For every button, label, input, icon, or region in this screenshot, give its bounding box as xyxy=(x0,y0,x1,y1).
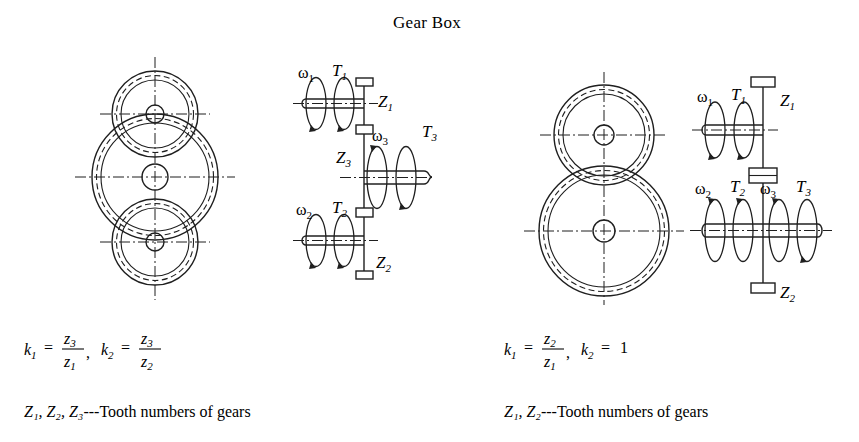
right-label-omega2: ω2 xyxy=(695,180,711,200)
right-T2-arrowhead xyxy=(736,198,743,205)
left-formula-k2-numerator: z3 xyxy=(140,330,153,349)
left-shaft-middle-right: ω3 T3 xyxy=(340,122,437,210)
right-T3-arrowhead xyxy=(800,256,807,263)
right-caption-text: ---Tooth numbers of gears xyxy=(541,403,708,421)
right-schematic-gear-z2 xyxy=(751,283,775,293)
right-formula-separator: , xyxy=(566,344,570,361)
left-label-T3: T3 xyxy=(422,122,437,143)
right-label-T3: T3 xyxy=(796,177,811,198)
left-schematic-gear-z2 xyxy=(356,271,373,279)
left-T1-arrowhead xyxy=(337,125,344,132)
left-caption-text: ---Tooth numbers of gears xyxy=(83,403,250,421)
right-formula-k2: k2 xyxy=(581,341,594,361)
right-schematic-label-z2: Z2 xyxy=(780,283,795,304)
right-formula-k1-denominator: z1 xyxy=(543,353,556,372)
left-schematic-gear-upper-block xyxy=(356,125,373,134)
left-omega2-arrowhead xyxy=(309,262,316,269)
left-T3-arrowhead xyxy=(399,203,406,210)
right-schematic: Z1 Z2 ω1 T1 xyxy=(690,77,832,304)
left-omega1-arrowhead xyxy=(309,125,316,132)
gear-box-figure: Gear Box xyxy=(0,0,859,442)
left-formula-k2-denominator: z2 xyxy=(140,353,153,372)
left-formula-k2: k2 xyxy=(101,341,114,361)
left-caption-symbols: Z₁, Z₂, Z₃ xyxy=(24,403,83,420)
right-omega1-arrowhead xyxy=(708,153,715,160)
right-shaft-upper: ω1 T1 xyxy=(692,85,778,160)
left-T2-arrowhead xyxy=(337,262,344,269)
right-schematic-gear-z1 xyxy=(751,77,775,87)
left-schematic: Z1 Z3 Z2 ω1 T1 xyxy=(293,61,437,279)
left-caption: Z₁, Z₂, Z₃---Tooth numbers of gears xyxy=(24,403,251,421)
right-formula-k2-value: 1 xyxy=(620,339,628,356)
right-formula-k1: k1 xyxy=(504,341,517,361)
left-schematic-label-z2: Z2 xyxy=(376,253,391,274)
left-formula-k1-denominator: z1 xyxy=(63,353,76,372)
left-formula-separator: , xyxy=(86,344,90,361)
left-schematic-gear-z1 xyxy=(356,78,373,86)
left-gear-view xyxy=(75,57,235,300)
left-schematic-label-z1: Z1 xyxy=(378,92,393,113)
left-omega3-arrowhead xyxy=(370,145,377,152)
left-schematic-gear-lower-block xyxy=(356,208,373,217)
left-label-T2: T2 xyxy=(332,198,347,219)
left-label-omega2: ω2 xyxy=(296,201,312,221)
left-formula-equals-2: = xyxy=(121,339,130,356)
right-label-T1: T1 xyxy=(731,85,746,106)
right-formula-equals-2: = xyxy=(601,339,610,356)
right-label-omega1: ω1 xyxy=(697,88,713,108)
right-formula: k1 = z2 z1 , k2 = 1 xyxy=(504,330,628,372)
right-formula-k1-numerator: z2 xyxy=(543,330,556,349)
right-caption-symbols: Z₁, Z₂ xyxy=(504,403,541,420)
right-formula-equals-1: = xyxy=(524,339,533,356)
left-formula: k1 = z3 z1 , k2 = z3 z2 xyxy=(24,330,161,372)
right-gear-view xyxy=(524,72,684,305)
left-formula-k1-numerator: z3 xyxy=(63,330,76,349)
left-gear-middle xyxy=(75,114,235,240)
left-label-omega1: ω1 xyxy=(298,64,314,84)
right-label-T2: T2 xyxy=(730,177,745,198)
right-caption: Z₁, Z₂---Tooth numbers of gears xyxy=(504,403,708,421)
right-shaft-lower: ω2 T2 ω3 T3 xyxy=(690,177,832,263)
left-label-T1: T1 xyxy=(332,61,347,82)
left-formula-k1: k1 xyxy=(24,341,37,361)
figure-canvas: Gear Box xyxy=(0,0,859,442)
figure-title: Gear Box xyxy=(393,13,461,32)
left-shaft-upper: ω1 T1 xyxy=(293,61,378,132)
left-label-omega3: ω3 xyxy=(372,127,389,147)
left-schematic-label-z3: Z3 xyxy=(336,148,351,169)
left-formula-equals-1: = xyxy=(44,339,53,356)
right-schematic-label-z1: Z1 xyxy=(780,91,795,112)
right-T1-arrowhead xyxy=(737,153,744,160)
